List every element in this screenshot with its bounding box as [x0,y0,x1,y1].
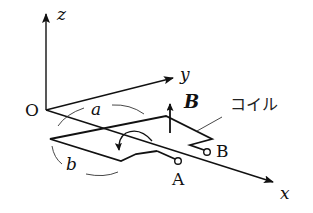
dimension-a-label: a [91,99,101,119]
coil-diagram: z y x O a b B コイル B A [0,0,313,213]
z-axis-label: z [56,4,67,24]
y-axis [46,78,173,110]
origin-label: O [25,100,39,120]
x-axis-label: x [280,183,290,203]
magnetic-field-label: B [183,91,199,112]
terminal-b-label: B [216,141,229,161]
y-axis-label: y [179,64,190,84]
terminal-b [204,149,211,156]
dimension-arc-a-left [58,108,84,126]
terminal-a [175,158,182,165]
rotation-arrow-icon [119,131,152,150]
dimension-arc-b-left [52,146,62,164]
terminal-a-label: A [171,169,185,189]
coil-leader-line [197,117,222,131]
x-axis [46,110,273,182]
dimension-arc-b-right [86,172,118,176]
dimension-arc-a-right [112,105,144,114]
coil-label: コイル [230,95,278,114]
dimension-b-label: b [66,154,77,174]
